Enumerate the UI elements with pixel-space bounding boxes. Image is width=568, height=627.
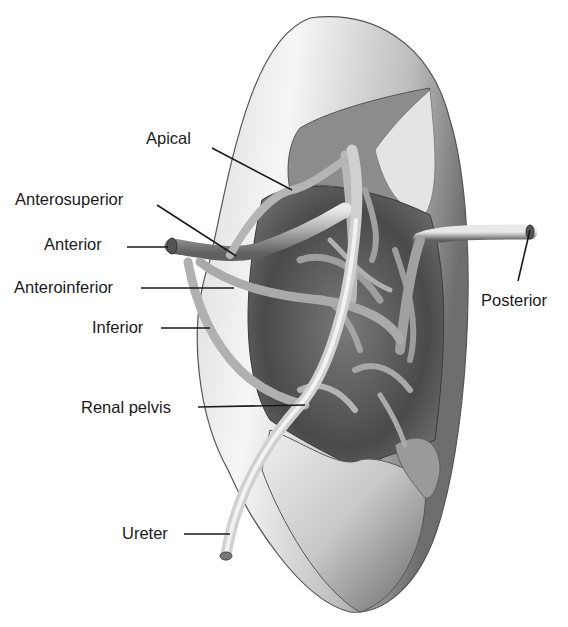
label-anterior: Anterior: [44, 236, 102, 253]
posterior-artery: [420, 232, 530, 240]
ureter-lumen: [220, 552, 232, 560]
label-ureter: Ureter: [122, 525, 168, 542]
kidney-illustration: [0, 0, 568, 627]
label-anterosuperior: Anterosuperior: [15, 191, 123, 208]
anterior-artery-lumen: [167, 238, 177, 254]
label-apical: Apical: [146, 130, 191, 147]
label-posterior: Posterior: [481, 292, 547, 309]
label-inferior: Inferior: [92, 319, 143, 336]
label-anteroinferior: Anteroinferior: [14, 279, 113, 296]
label-renal-pelvis: Renal pelvis: [81, 399, 171, 416]
